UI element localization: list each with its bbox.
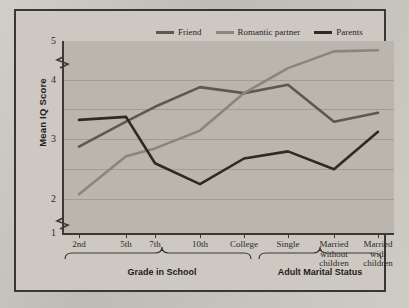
y-tick-label-1: 1 [42, 227, 56, 238]
x-tick-5 [288, 233, 289, 238]
x-tick-label-married-with-children: Married with children [355, 240, 401, 269]
legend-label-friend: Friend [178, 27, 202, 37]
y-axis-title: Mean IQ Score [37, 53, 48, 173]
x-tick-label-2nd: 2nd [56, 240, 102, 250]
plot-area [62, 41, 394, 234]
legend-swatch-friend [156, 31, 174, 34]
x-tick-0 [79, 233, 80, 238]
y-axis-line [62, 41, 64, 234]
legend-item-parents: Parents [314, 27, 363, 37]
y-tick-label-2: 2 [42, 193, 56, 204]
legend-item-friend: Friend [156, 27, 202, 37]
gridline-3-5 [62, 109, 394, 110]
x-tick-label-single: Single [265, 240, 311, 250]
y-tick-label-5: 5 [42, 35, 56, 46]
chart-legend: Friend Romantic partner Parents [156, 27, 363, 37]
legend-label-parents: Parents [336, 27, 363, 37]
x-tick-7 [378, 233, 379, 238]
x-tick-label-college: College [221, 240, 267, 250]
x-tick-2 [155, 233, 156, 238]
group-label-grade-in-school: Grade in School [127, 267, 196, 277]
x-tick-label-7th: 7th [132, 240, 178, 250]
gridline-2 [62, 199, 394, 200]
gridline-3 [62, 139, 394, 140]
x-tick-label-10th: 10th [177, 240, 223, 250]
y-tick-label-4: 4 [42, 74, 56, 85]
legend-label-romantic-partner: Romantic partner [238, 27, 301, 37]
group-label-adult-marital-status: Adult Marital Status [278, 267, 363, 277]
x-tick-4 [244, 233, 245, 238]
y-tick-label-3: 3 [42, 133, 56, 144]
x-tick-1 [126, 233, 127, 238]
figure-frame: Friend Romantic partner Parents Mean IQ … [14, 9, 386, 292]
legend-swatch-romantic-partner [216, 31, 234, 34]
legend-item-romantic-partner: Romantic partner [216, 27, 301, 37]
gridline-4 [62, 80, 394, 81]
legend-swatch-parents [314, 31, 332, 34]
x-tick-6 [334, 233, 335, 238]
x-axis-line [62, 233, 394, 235]
x-tick-label-married-without-children: Married without children [311, 240, 357, 269]
x-tick-3 [200, 233, 201, 238]
gridline-2-5 [62, 169, 394, 170]
